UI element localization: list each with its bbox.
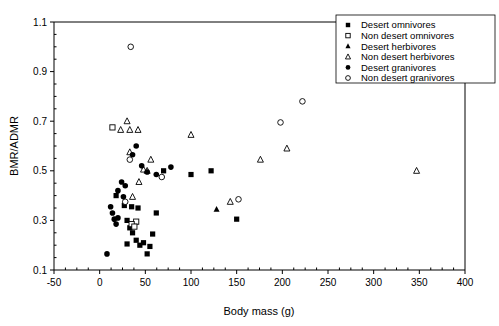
legend-marker-filled-square <box>346 23 350 27</box>
data-point <box>236 197 242 203</box>
y-tick-label: 0.1 <box>33 265 47 276</box>
x-tick-label: 250 <box>320 277 337 288</box>
data-point <box>115 215 121 221</box>
x-tick-label: 100 <box>183 277 200 288</box>
legend-label: Desert herbivores <box>361 41 436 52</box>
data-point <box>147 244 152 249</box>
data-point <box>168 164 174 170</box>
data-point <box>124 241 129 246</box>
x-tick-label: 200 <box>274 277 291 288</box>
data-point <box>122 183 128 189</box>
data-point <box>122 199 128 205</box>
data-point <box>153 172 159 178</box>
legend-marker-open-square <box>346 33 350 37</box>
x-tick-label: 50 <box>140 277 152 288</box>
data-point <box>129 204 134 209</box>
legend-marker-open-circle <box>346 76 351 81</box>
data-point <box>234 217 239 222</box>
data-point <box>114 193 119 198</box>
data-point <box>150 231 155 236</box>
data-point <box>161 168 166 173</box>
data-point <box>130 230 135 235</box>
x-tick-label: 150 <box>228 277 245 288</box>
data-point <box>133 143 139 149</box>
x-tick-label: -50 <box>47 277 62 288</box>
legend-label: Non desert granivores <box>361 72 455 83</box>
data-point <box>128 44 134 50</box>
legend-label: Non desert omnivores <box>361 30 454 41</box>
x-tick-label: 400 <box>457 277 474 288</box>
data-point <box>134 238 139 243</box>
y-axis-title: BMR/ADMR <box>8 116 20 176</box>
data-point <box>110 125 115 130</box>
data-point <box>278 120 284 126</box>
data-point <box>139 163 145 169</box>
y-tick-label: 0.9 <box>33 66 47 77</box>
x-tick-label: 350 <box>411 277 428 288</box>
chart-canvas: 0.10.30.50.70.91.1 -50050100150200250300… <box>0 0 499 326</box>
legend-marker-filled-circle <box>346 65 351 70</box>
data-point <box>135 205 140 210</box>
y-tick-label: 0.5 <box>33 165 47 176</box>
scatter-plot-figure: 0.10.30.50.70.91.1 -50050100150200250300… <box>0 0 499 326</box>
data-point <box>104 251 110 257</box>
data-point <box>300 99 306 105</box>
chart-legend: Desert omnivoresNon desert omnivoresDese… <box>336 15 495 83</box>
y-tick-label: 0.7 <box>33 116 47 127</box>
y-tick-label: 1.1 <box>33 17 47 28</box>
legend-label: Desert omnivores <box>361 19 436 30</box>
data-point <box>110 210 116 216</box>
y-tick-label: 0.3 <box>33 215 47 226</box>
data-point <box>127 157 133 163</box>
data-point <box>115 188 121 194</box>
data-point <box>154 210 159 215</box>
data-point <box>144 169 150 175</box>
data-point <box>113 221 119 227</box>
data-point <box>132 224 137 229</box>
data-point <box>208 168 213 173</box>
x-axis-title: Body mass (g) <box>224 305 295 317</box>
data-point <box>188 172 193 177</box>
legend-label: Non desert herbivores <box>361 51 455 62</box>
data-point <box>141 240 146 245</box>
legend-label: Desert granivores <box>361 62 436 73</box>
data-point <box>159 174 165 180</box>
x-tick-label: 300 <box>365 277 382 288</box>
data-point <box>108 204 114 210</box>
data-point <box>145 251 150 256</box>
x-tick-label: 0 <box>97 277 103 288</box>
